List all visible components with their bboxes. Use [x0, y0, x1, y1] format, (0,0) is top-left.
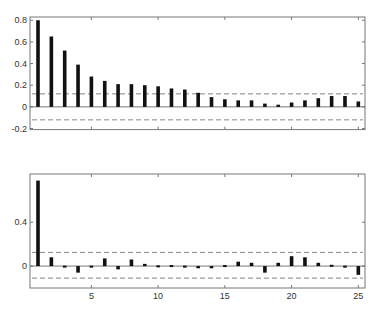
bar-lag-25	[357, 266, 361, 275]
bar-lag-23	[330, 265, 334, 267]
bar-lag-8	[130, 260, 134, 267]
bar-lag-2	[50, 36, 54, 106]
y-tick-label: -0.2	[11, 124, 27, 134]
bar-lag-8	[130, 84, 134, 107]
bar-lag-14	[210, 266, 214, 268]
y-tick-label: 0.8	[14, 15, 27, 25]
bar-lag-7	[116, 84, 120, 107]
bar-lag-17	[250, 100, 254, 106]
bar-lag-11	[170, 265, 174, 267]
plot-frame	[30, 174, 365, 288]
bar-lag-10	[156, 265, 160, 267]
bar-lag-22	[316, 98, 320, 107]
bar-lag-7	[116, 266, 120, 269]
bar-lag-22	[316, 263, 320, 266]
bar-lag-1	[36, 181, 40, 266]
bar-lag-25	[357, 101, 361, 106]
bar-lag-24	[343, 266, 347, 268]
plot-frame	[30, 17, 365, 130]
y-tick-label: 0.4	[14, 59, 27, 69]
bar-lag-14	[210, 97, 214, 107]
bar-lag-12	[183, 266, 187, 268]
x-tick-label: 25	[353, 291, 363, 301]
bar-lag-13	[196, 93, 200, 107]
bar-lag-4	[76, 65, 80, 107]
bar-lag-13	[196, 266, 200, 268]
bar-lag-18	[263, 266, 267, 273]
bar-lag-18	[263, 104, 267, 107]
x-tick-label: 5	[89, 291, 94, 301]
bar-lag-23	[330, 96, 334, 107]
bar-lag-6	[103, 81, 107, 107]
bar-lag-17	[250, 263, 254, 266]
bar-lag-5	[90, 77, 94, 107]
bar-lag-1	[36, 20, 40, 107]
bar-lag-12	[183, 90, 187, 107]
top-acf-plot: -0.200.20.40.60.8	[11, 15, 365, 133]
figure: -0.200.20.40.60.8 00.4510152025	[0, 0, 382, 313]
bar-lag-16	[236, 100, 240, 106]
bar-lag-2	[50, 257, 54, 266]
bar-lag-16	[236, 262, 240, 266]
bar-lag-20	[290, 256, 294, 266]
y-tick-label: 0.2	[14, 80, 27, 90]
bar-lag-15	[223, 265, 227, 267]
y-tick-label: 0	[22, 261, 27, 271]
bar-lag-9	[143, 85, 147, 107]
bar-lag-21	[303, 257, 307, 266]
x-tick-label: 10	[153, 291, 163, 301]
bar-lag-9	[143, 264, 147, 266]
y-tick-label: 0.4	[14, 217, 27, 227]
bottom-pacf-plot: 00.4510152025	[14, 174, 365, 301]
bar-lag-19	[276, 263, 280, 266]
bar-lag-19	[276, 105, 280, 107]
bar-lag-3	[63, 266, 67, 268]
bar-lag-11	[170, 88, 174, 106]
bar-lag-24	[343, 96, 347, 107]
x-tick-label: 20	[287, 291, 297, 301]
bar-lag-4	[76, 266, 80, 273]
y-tick-label: 0	[22, 102, 27, 112]
x-tick-label: 15	[220, 291, 230, 301]
bar-lag-21	[303, 100, 307, 106]
bar-lag-5	[90, 266, 94, 268]
bar-lag-3	[63, 51, 67, 107]
bar-lag-15	[223, 99, 227, 107]
y-tick-label: 0.6	[14, 37, 27, 47]
bar-lag-20	[290, 103, 294, 107]
bar-lag-10	[156, 86, 160, 107]
bar-lag-6	[103, 258, 107, 266]
